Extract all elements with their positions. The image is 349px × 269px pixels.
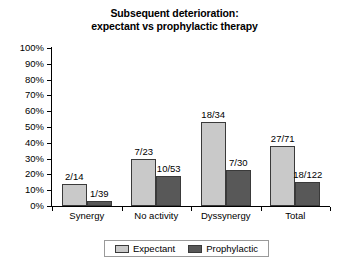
category-label: Total [261, 210, 331, 221]
legend-swatch-expectant-icon [115, 245, 129, 253]
category-label: Synergy [52, 210, 122, 221]
y-axis-label: 40% [0, 138, 44, 148]
bar-label: 7/23 [120, 147, 168, 157]
x-axis-tick [330, 207, 331, 211]
chart-title-line-2: expectant vs prophylactic therapy [0, 20, 349, 33]
chart-title: Subsequent deterioration: expectant vs p… [0, 7, 349, 33]
bar-label: 1/39 [75, 189, 123, 199]
bar-prophylactic-total [295, 182, 320, 206]
y-axis-label: 0% [0, 201, 44, 211]
y-axis-label: 10% [0, 185, 44, 195]
bar-prophylactic-dyssynergy [226, 170, 251, 206]
bar-label: 18/34 [189, 110, 237, 120]
legend-label-expectant: Expectant [133, 244, 175, 254]
bar-chart: Subsequent deterioration: expectant vs p… [0, 0, 349, 269]
y-axis-label: 70% [0, 90, 44, 100]
y-axis-label: 50% [0, 122, 44, 132]
bar-prophylactic-no-activity [156, 176, 181, 206]
category-label: No activity [122, 210, 192, 221]
y-axis-label: 60% [0, 106, 44, 116]
category-label: Dyssynergy [191, 210, 261, 221]
bar-prophylactic-synergy [87, 201, 112, 206]
chart-title-line-1: Subsequent deterioration: [0, 7, 349, 20]
bar-label: 2/14 [50, 172, 98, 182]
y-axis-label: 90% [0, 59, 44, 69]
y-axis-label: 100% [0, 43, 44, 53]
bar-label: 10/53 [145, 164, 193, 174]
y-axis-label: 20% [0, 169, 44, 179]
legend-swatch-prophylactic-icon [188, 245, 202, 253]
chart-legend: Expectant Prophylactic [104, 240, 269, 257]
legend-entry-prophylactic: Prophylactic [188, 244, 258, 254]
y-axis-label: 30% [0, 154, 44, 164]
bar-label: 7/30 [214, 158, 262, 168]
bar-label: 18/122 [284, 170, 332, 180]
legend-label-prophylactic: Prophylactic [206, 244, 258, 254]
legend-entry-expectant: Expectant [115, 244, 175, 254]
bar-label: 27/71 [259, 134, 307, 144]
y-axis-label: 80% [0, 75, 44, 85]
plot-area [52, 48, 330, 206]
